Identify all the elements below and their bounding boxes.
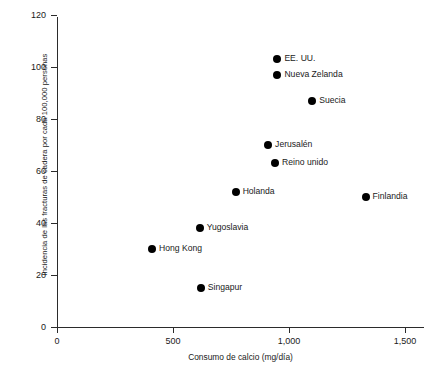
x-tick-mark bbox=[57, 327, 58, 333]
scatter-chart: 020406080100120 05001,0001,500 Incidenci… bbox=[0, 0, 432, 372]
data-point-label: EE. UU. bbox=[284, 54, 315, 63]
x-tick-label: 500 bbox=[150, 337, 196, 346]
y-tick-mark bbox=[51, 223, 57, 224]
x-tick-label: 1,500 bbox=[382, 337, 428, 346]
data-point-label: Singapur bbox=[208, 283, 242, 292]
data-point-marker[interactable] bbox=[264, 141, 272, 149]
data-point-label: Finlandia bbox=[373, 192, 408, 201]
y-tick-label: 120 bbox=[16, 11, 46, 20]
y-tick-mark bbox=[51, 119, 57, 120]
x-tick-label: 0 bbox=[34, 337, 80, 346]
y-tick-label: 0 bbox=[16, 323, 46, 332]
data-point-marker[interactable] bbox=[197, 284, 205, 292]
data-point-marker[interactable] bbox=[362, 193, 370, 201]
data-point-label: Hong Kong bbox=[159, 244, 202, 253]
y-tick-mark bbox=[51, 275, 57, 276]
data-point-label: Nueva Zelanda bbox=[284, 70, 342, 79]
data-point-label: Jerusalén bbox=[275, 140, 312, 149]
x-tick-mark bbox=[405, 327, 406, 333]
y-tick-mark bbox=[51, 67, 57, 68]
data-point-marker[interactable] bbox=[308, 97, 316, 105]
data-point-marker[interactable] bbox=[148, 245, 156, 253]
data-point-label: Suecia bbox=[319, 96, 345, 105]
y-tick-mark bbox=[51, 15, 57, 16]
data-point-marker[interactable] bbox=[273, 55, 281, 63]
data-point-marker[interactable] bbox=[273, 71, 281, 79]
x-tick-mark bbox=[173, 327, 174, 333]
y-axis-line bbox=[57, 17, 58, 328]
data-point-label: Yugoslavia bbox=[207, 223, 249, 232]
data-point-marker[interactable] bbox=[271, 159, 279, 167]
y-axis-title: Incidencia de las fracturas de cadera po… bbox=[40, 25, 49, 305]
data-point-marker[interactable] bbox=[196, 224, 204, 232]
x-axis-line bbox=[57, 327, 424, 328]
y-tick-mark bbox=[51, 171, 57, 172]
x-tick-mark bbox=[289, 327, 290, 333]
x-axis-title: Consumo de calcio (mg/día) bbox=[57, 352, 424, 362]
x-tick-label: 1,000 bbox=[266, 337, 312, 346]
data-point-label: Reino unido bbox=[282, 158, 328, 167]
data-point-marker[interactable] bbox=[232, 188, 240, 196]
data-point-label: Holanda bbox=[243, 187, 275, 196]
